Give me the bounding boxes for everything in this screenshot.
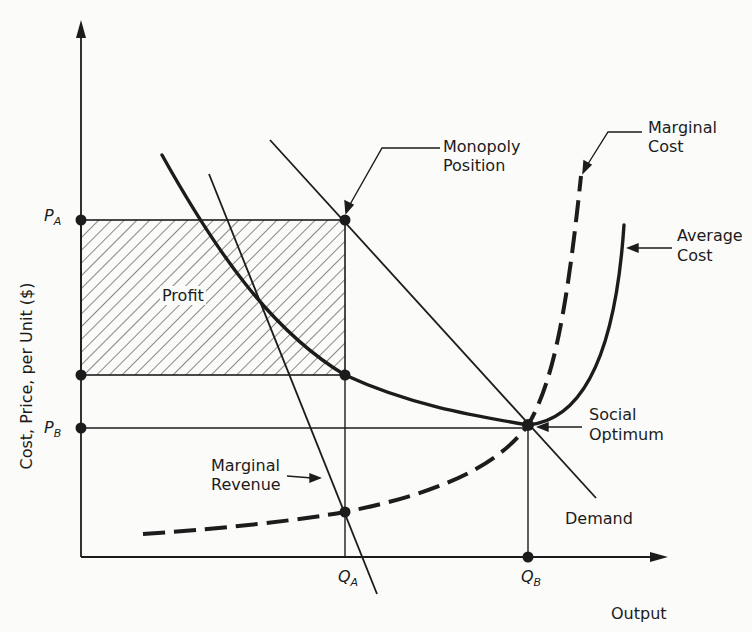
social-optimum-label-line1: Social (589, 405, 636, 424)
monopoly-position-dot (340, 215, 351, 226)
social-optimum-leader-arrow (538, 423, 582, 431)
demand-label: Demand (565, 509, 633, 528)
average-cost-label-line1: Average (677, 226, 743, 245)
monopoly-position-label-line2: Position (443, 156, 505, 175)
marginal-cost-label-line2: Cost (648, 137, 684, 156)
marginal-revenue-label-line2: Revenue (211, 475, 281, 494)
pb-axis-dot (76, 423, 87, 434)
pa-axis-dot (76, 215, 87, 226)
monopoly-leader-arrow (345, 148, 440, 213)
qa-tick-label: QA (338, 567, 358, 588)
marginal-cost-leader-arrow (583, 132, 642, 173)
pa-tick-label: PA (44, 206, 61, 227)
qb-tick-label: QB (521, 567, 541, 588)
marginal-revenue-label-line1: Marginal (211, 456, 280, 475)
profit-region (81, 220, 345, 375)
x-axis-label: Output (611, 604, 667, 623)
monopoly-diagram (0, 0, 752, 632)
qb-axis-dot (523, 552, 534, 563)
mr-mc-intersection-dot (340, 507, 351, 518)
profit-label: Profit (160, 286, 206, 305)
y-axis-label: Cost, Price, per Unit ($) (17, 310, 36, 470)
social-optimum-dot (522, 419, 534, 431)
marginal-cost-label-line1: Marginal (648, 118, 717, 137)
social-optimum-label-line2: Optimum (589, 425, 664, 444)
pb-tick-label: PB (44, 418, 61, 439)
ac-axis-dot (76, 370, 87, 381)
monopoly-position-label-line1: Monopoly (443, 137, 520, 156)
average-cost-at-qa-dot (340, 370, 351, 381)
average-cost-leader-arrow (628, 244, 672, 252)
marginal-revenue-leader-arrow (287, 474, 320, 482)
x-axis (81, 552, 668, 562)
average-cost-label-line2: Cost (677, 246, 713, 265)
